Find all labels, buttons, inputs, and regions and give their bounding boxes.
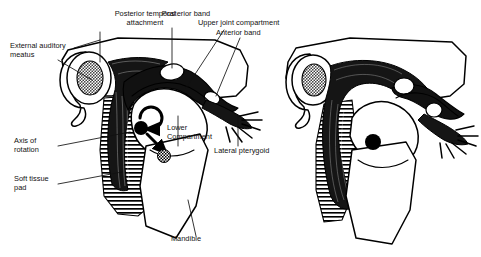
figure-canvas: External auditory meatus Posterior tempo… bbox=[0, 0, 481, 257]
right-condyle-dot-icon bbox=[365, 134, 381, 150]
label-external-auditory-meatus-line2: meatus bbox=[10, 50, 35, 59]
external-auditory-meatus-lumen bbox=[77, 61, 103, 95]
mandible-ramus-right bbox=[346, 142, 416, 244]
label-posterior-band: Posterior band bbox=[162, 9, 210, 18]
left-panel-drawing bbox=[60, 38, 262, 238]
label-lower-compartment-line1: Lower bbox=[167, 123, 188, 132]
label-lower-compartment-line2: Compartment bbox=[167, 132, 212, 141]
label-mandible: Mandible bbox=[171, 234, 201, 243]
label-upper-joint-compartment: Upper joint compartment bbox=[198, 18, 279, 27]
external-auditory-meatus-lumen-right bbox=[302, 64, 326, 96]
label-axis-of-rotation-line2: rotation bbox=[14, 145, 39, 154]
label-soft-tissue-pad-line2: pad bbox=[14, 183, 26, 192]
label-anterior-band: Anterior band bbox=[216, 28, 261, 37]
condyle-center-dot-icon bbox=[134, 121, 148, 135]
label-external-auditory-meatus-line1: External auditory bbox=[10, 41, 66, 50]
label-lateral-pterygoid: Lateral pterygoid bbox=[214, 146, 269, 155]
label-soft-tissue-pad-line1: Soft tissue bbox=[14, 174, 49, 183]
label-posterior-temporal-attachment-line2: attachment bbox=[127, 18, 164, 27]
label-axis-of-rotation-line1: Axis of bbox=[14, 136, 37, 145]
anterior-band-right bbox=[426, 103, 442, 117]
right-panel-drawing bbox=[286, 38, 478, 244]
secondary-axis-dot-icon bbox=[158, 150, 171, 163]
tmj-anatomical-figure: External auditory meatus Posterior tempo… bbox=[0, 0, 481, 257]
posterior-band-right bbox=[394, 78, 414, 94]
